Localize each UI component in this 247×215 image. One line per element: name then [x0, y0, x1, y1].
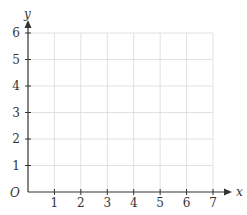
x-tick-label: 3	[103, 196, 111, 210]
coordinate-grid-chart: 1234567123456 x y O	[0, 0, 247, 215]
x-axis-arrow-icon	[224, 189, 232, 196]
y-tick-label: 1	[12, 159, 20, 173]
y-axis-arrow-icon	[25, 20, 32, 28]
origin-label: O	[10, 186, 20, 200]
y-tick-label: 6	[12, 26, 20, 40]
y-tick-label: 5	[12, 53, 20, 67]
y-axis-label: y	[23, 7, 31, 21]
x-tick-label: 1	[51, 196, 59, 210]
x-tick-label: 6	[183, 196, 191, 210]
y-tick-label: 3	[12, 106, 20, 120]
x-tick-label: 4	[130, 196, 138, 210]
tick-labels: 1234567123456	[12, 26, 216, 210]
x-tick-label: 7	[209, 196, 217, 210]
y-tick-label: 4	[12, 79, 20, 93]
x-axis-label: x	[236, 185, 243, 199]
ticks	[25, 33, 213, 195]
x-tick-label: 2	[77, 196, 85, 210]
x-tick-label: 5	[156, 196, 164, 210]
axes	[25, 20, 233, 196]
grid-lines	[28, 33, 213, 192]
y-tick-label: 2	[12, 132, 20, 146]
